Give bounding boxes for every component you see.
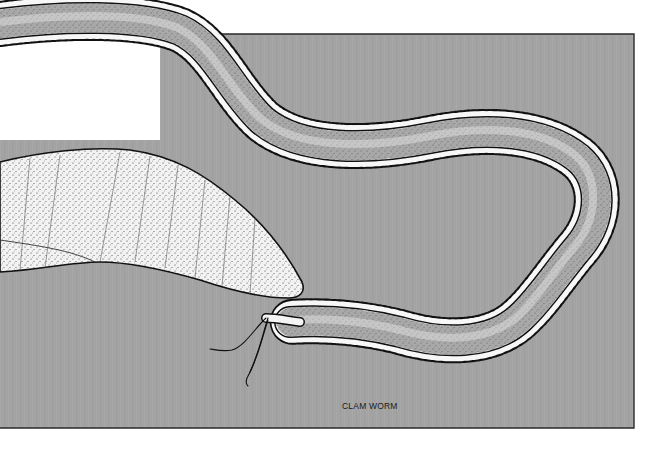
clam-worm-illustration bbox=[0, 0, 665, 453]
caption-label: CLAM WORM bbox=[342, 401, 398, 411]
